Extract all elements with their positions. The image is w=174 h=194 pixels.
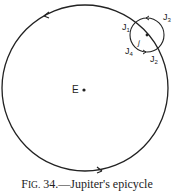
earth-label: E: [72, 84, 79, 95]
j3-label: J3: [163, 12, 172, 23]
epicycle-center-label: j: [137, 38, 140, 47]
earth-dot: [82, 88, 85, 91]
figure-caption: FIG. 34.—Jupiter's epicycle: [0, 177, 174, 192]
j2-label: J2: [150, 54, 159, 65]
epicycle-diagram: E j J1 J3 J4 J2: [0, 0, 174, 194]
deferent-circle: [2, 5, 168, 171]
j4-label: J4: [125, 46, 134, 57]
epicycle-center-dot: [146, 34, 149, 37]
j1-label: J1: [122, 22, 131, 33]
